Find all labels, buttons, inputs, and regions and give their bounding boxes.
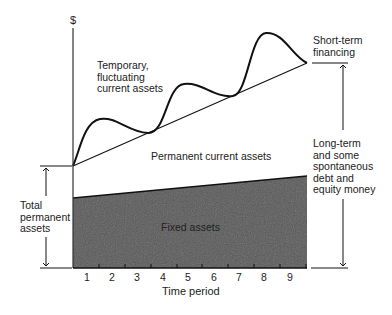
long-term-financing-label: Long-term and some spontaneous debt and … [313,138,375,196]
permanent-current-assets-label: Permanent current assets [151,151,271,163]
x-tick-label: 4 [157,271,169,283]
x-tick-label: 6 [208,271,220,283]
x-tick-label: 5 [182,271,194,283]
total-assets-curve [73,33,307,166]
fixed-assets-label: Fixed assets [161,222,220,234]
x-tick-label: 9 [284,271,296,283]
x-tick-label: 3 [131,271,143,283]
y-axis-label: $ [70,15,76,27]
short-term-financing-label: Short-term financing [313,35,363,58]
x-tick-label: 8 [258,271,270,283]
x-tick-label: 7 [233,271,245,283]
total-permanent-assets-label: Total permanent assets [20,200,70,235]
temporary-assets-label: Temporary, fluctuating current assets [97,60,163,95]
x-tick-label: 2 [106,271,118,283]
x-tick-label: 1 [81,271,93,283]
x-axis-label: Time period [162,286,220,298]
